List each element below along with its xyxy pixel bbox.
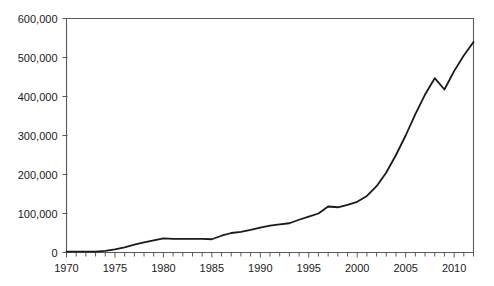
data-line-series-1 <box>67 42 474 252</box>
x-tick-label: 1970 <box>54 262 78 274</box>
data-series-group <box>67 42 474 252</box>
y-tick-label: 100,000 <box>18 208 58 220</box>
x-tick-label: 1980 <box>151 262 175 274</box>
y-tick-label: 600,000 <box>18 13 58 25</box>
x-axis-tick-labels: 197019751980198519901995200020052010 <box>54 262 466 274</box>
line-chart: 0100,000200,000300,000400,000500,000600,… <box>0 0 494 286</box>
chart-canvas: 0100,000200,000300,000400,000500,000600,… <box>0 0 494 286</box>
axis-frame-path <box>67 19 474 253</box>
x-tick-label: 2010 <box>442 262 466 274</box>
y-tick-label: 400,000 <box>18 91 58 103</box>
plot-frame <box>67 19 474 253</box>
x-tick-label: 2000 <box>345 262 369 274</box>
y-tick-label: 300,000 <box>18 130 58 142</box>
x-axis-tick-marks <box>67 253 474 258</box>
x-tick-label: 1985 <box>200 262 224 274</box>
x-tick-label: 1995 <box>297 262 321 274</box>
y-axis-tick-labels: 0100,000200,000300,000400,000500,000600,… <box>18 13 58 259</box>
y-tick-label: 200,000 <box>18 169 58 181</box>
x-tick-label: 2005 <box>393 262 417 274</box>
y-tick-label: 0 <box>51 247 57 259</box>
y-tick-label: 500,000 <box>18 52 58 64</box>
x-tick-label: 1990 <box>248 262 272 274</box>
x-tick-label: 1975 <box>103 262 127 274</box>
